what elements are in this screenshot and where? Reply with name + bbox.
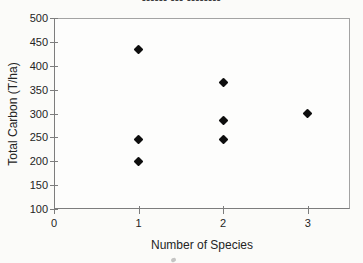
y-tick-mark: [50, 90, 58, 91]
scatter-chart-figure: ▪▪▪▪▪▪ ▪▪▪ ▪▪▪▪▪▪▪▪ Total Carbon (T/ha) …: [0, 0, 363, 263]
x-tick-label: 2: [213, 218, 233, 229]
data-point-diamond: [218, 78, 228, 88]
data-point-diamond: [303, 109, 313, 119]
y-tick-mark: [50, 161, 58, 162]
data-point-diamond: [134, 44, 144, 54]
y-tick-label: 300: [18, 109, 48, 120]
y-tick-mark: [50, 42, 58, 43]
x-tick-mark: [139, 206, 140, 214]
x-axis-title: Number of Species: [151, 238, 253, 252]
x-tick-label: 1: [129, 218, 149, 229]
y-tick-mark: [50, 137, 58, 138]
y-tick-label: 100: [18, 204, 48, 215]
x-tick-label: 3: [298, 218, 318, 229]
x-tick-mark: [223, 206, 224, 214]
x-tick-mark: [54, 206, 55, 214]
x-tick-mark: [308, 206, 309, 214]
y-tick-label: 450: [18, 37, 48, 48]
data-point-diamond: [218, 135, 228, 145]
data-point-diamond: [134, 135, 144, 145]
y-tick-mark: [50, 66, 58, 67]
chart-layer: 1001502002503003504004505000123: [0, 0, 363, 263]
y-tick-label: 500: [18, 13, 48, 24]
data-point-diamond: [218, 116, 228, 126]
data-point-diamond: [134, 156, 144, 166]
y-tick-label: 350: [18, 85, 48, 96]
y-tick-label: 150: [18, 180, 48, 191]
y-tick-mark: [50, 114, 58, 115]
y-tick-label: 200: [18, 156, 48, 167]
y-tick-mark: [50, 185, 58, 186]
x-tick-label: 0: [44, 218, 64, 229]
y-tick-mark: [50, 18, 58, 19]
y-tick-label: 250: [18, 132, 48, 143]
y-tick-label: 400: [18, 61, 48, 72]
